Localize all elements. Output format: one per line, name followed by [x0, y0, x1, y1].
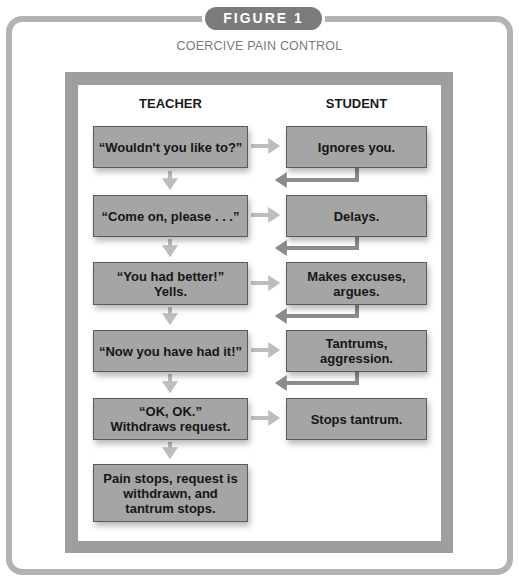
- teacher-step-3: “You had better!” Yells.: [93, 262, 248, 305]
- teacher-step-1: “Wouldn't you like to?”: [93, 126, 248, 168]
- student-response-3: Makes excuses, argues.: [286, 262, 427, 305]
- teacher-column-header: TEACHER: [93, 96, 248, 111]
- teacher-step-5: “OK, OK.” Withdraws request.: [93, 398, 248, 440]
- student-response-5: Stops tantrum.: [286, 398, 427, 440]
- student-column-header: STUDENT: [286, 96, 427, 111]
- teacher-step-2: “Come on, please . . .”: [93, 195, 248, 237]
- student-response-4: Tantrums, aggression.: [286, 330, 427, 372]
- figure-title: COERCIVE PAIN CONTROL: [0, 39, 519, 53]
- figure-badge: FIGURE 1: [205, 7, 322, 30]
- student-response-1: Ignores you.: [286, 126, 427, 168]
- teacher-step-6: Pain stops, request is withdrawn, and ta…: [93, 464, 248, 522]
- student-response-2: Delays.: [286, 195, 427, 237]
- teacher-step-4: “Now you have had it!”: [93, 330, 248, 372]
